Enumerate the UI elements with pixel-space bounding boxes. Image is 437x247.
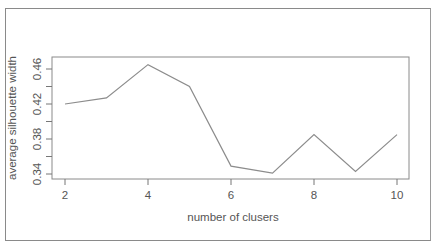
- y-axis: [46, 69, 52, 174]
- plot-area: [52, 57, 409, 179]
- y-tick-label: 0.38: [31, 128, 43, 150]
- x-axis: [65, 179, 397, 185]
- x-tick-label: 6: [228, 189, 234, 201]
- x-tick-labels: 2 4 6 8 10: [62, 189, 404, 201]
- y-tick-label: 0.46: [31, 58, 43, 80]
- x-tick-label: 2: [62, 189, 68, 201]
- x-tick-label: 10: [391, 189, 404, 201]
- series-line: [65, 65, 397, 174]
- x-tick-label: 8: [311, 189, 317, 201]
- y-tick-label: 0.34: [31, 162, 43, 185]
- y-axis-title: average silhouette width: [6, 56, 18, 180]
- x-axis-title: number of clusers: [187, 211, 279, 223]
- y-tick-label: 0.42: [31, 93, 43, 115]
- x-tick-label: 4: [145, 189, 152, 201]
- y-tick-labels: 0.34 0.38 0.42 0.46: [31, 58, 43, 185]
- line-chart: 0.34 0.38 0.42 0.46 average silhouette w…: [0, 0, 437, 247]
